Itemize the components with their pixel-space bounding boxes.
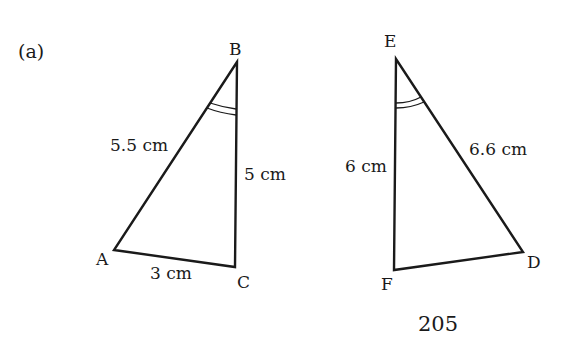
angle-b-arc-icon <box>210 103 236 109</box>
triangle-abc <box>114 62 237 267</box>
vertex-label-b: B <box>229 41 242 58</box>
vertex-label-f: F <box>381 276 393 293</box>
part-label: (a) <box>18 42 44 61</box>
side-fe-length: 6 cm <box>345 158 387 175</box>
side-ac-length: 3 cm <box>150 265 192 282</box>
vertex-label-c: C <box>237 274 250 291</box>
vertex-label-e: E <box>384 33 396 50</box>
triangle-def <box>394 59 523 270</box>
side-bc-length: 5 cm <box>244 166 286 183</box>
figure-canvas: (a) B A C 5.5 cm 5 cm 3 cm E F D 6 cm 6.… <box>0 0 570 359</box>
vertex-label-a: A <box>96 251 108 268</box>
angle-e-arc-icon <box>396 97 421 103</box>
page-number: 205 <box>418 314 458 335</box>
angle-b-arc-icon <box>207 108 236 115</box>
side-ab-length: 5.5 cm <box>110 137 168 154</box>
vertex-label-d: D <box>527 254 541 271</box>
side-ed-length: 6.6 cm <box>469 141 527 158</box>
